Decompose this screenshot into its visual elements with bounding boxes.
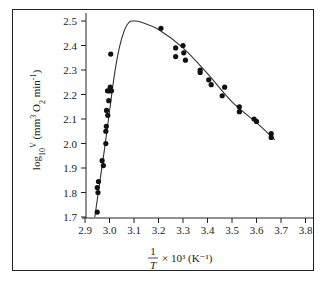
fit-line — [95, 21, 275, 217]
y-tick-label: 2.0 — [63, 138, 77, 150]
data-point — [173, 45, 178, 50]
data-point — [100, 158, 105, 163]
data-point — [183, 58, 188, 63]
x-tick-label: 3.7 — [274, 224, 288, 236]
x-tick-label: 3.0 — [103, 224, 117, 236]
data-point — [220, 93, 225, 98]
data-point — [158, 26, 163, 31]
data-point — [237, 109, 242, 114]
y-tick-label: 1.9 — [63, 162, 77, 174]
data-point — [209, 82, 214, 87]
y-tick-label: 2.1 — [63, 113, 77, 125]
data-point — [198, 70, 203, 75]
data-point — [108, 51, 113, 56]
data-point — [180, 43, 185, 48]
y-tick-label: 1.8 — [63, 187, 77, 199]
x-axis-title-denominator: T — [150, 259, 157, 271]
y-tick-label: 2.5 — [63, 15, 77, 27]
data-point — [103, 141, 108, 146]
y-axis-title: log10V (mm3 O2 min-1) — [29, 70, 47, 171]
data-point — [105, 113, 110, 118]
x-tick-label: 3.6 — [250, 224, 264, 236]
fitted-curve — [95, 21, 275, 217]
y-tick-label: 1.7 — [63, 211, 77, 223]
data-point — [181, 50, 186, 55]
data-point — [104, 108, 109, 113]
data-point — [269, 135, 274, 140]
data-point — [101, 163, 106, 168]
data-point — [106, 98, 111, 103]
x-tick-label: 2.9 — [78, 224, 92, 236]
data-point — [95, 210, 100, 215]
data-point — [95, 190, 100, 195]
data-point — [206, 77, 211, 82]
data-point — [109, 88, 114, 93]
data-points — [95, 26, 274, 215]
axes: 1.71.81.92.02.12.22.32.42.52.93.03.13.23… — [63, 13, 313, 236]
y-tick-label: 2.2 — [63, 89, 77, 101]
y-tick-label: 2.4 — [63, 40, 77, 52]
data-point — [222, 85, 227, 90]
x-axis-title-numerator: 1 — [150, 245, 156, 257]
data-point — [254, 119, 259, 124]
data-point — [237, 104, 242, 109]
data-point — [173, 54, 178, 59]
x-tick-label: 3.1 — [127, 224, 141, 236]
data-point — [104, 124, 109, 129]
scatter-chart: 1.71.81.92.02.12.22.32.42.52.93.03.13.23… — [0, 0, 332, 281]
x-axis-title-suffix: × 10³ (K⁻¹) — [162, 252, 213, 265]
data-point — [103, 129, 108, 134]
x-tick-label: 3.4 — [201, 224, 215, 236]
x-tick-label: 3.2 — [152, 224, 166, 236]
x-tick-label: 3.8 — [299, 224, 313, 236]
data-point — [96, 179, 101, 184]
x-tick-label: 3.5 — [225, 224, 239, 236]
data-point — [95, 185, 100, 190]
x-tick-label: 3.3 — [176, 224, 190, 236]
axis-labels: log10V (mm3 O2 min-1) 1 T × 10³ (K⁻¹) — [29, 70, 213, 271]
y-tick-label: 2.3 — [63, 64, 77, 76]
